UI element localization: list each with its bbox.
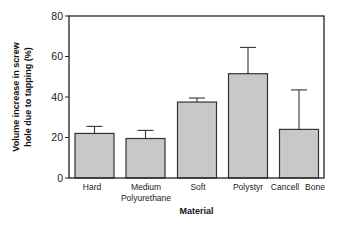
y-axis-title: Volume increase in screw hole due to tap… [11, 41, 33, 151]
x-category-label: Medium [131, 182, 161, 192]
x-category-label: Soft [190, 182, 206, 192]
bar-chart: 020406080 HardMediumPolyurethaneSoftPoly… [0, 0, 340, 227]
x-axis-category-labels: HardMediumPolyurethaneSoftPolystyrCancel… [83, 182, 325, 203]
x-category-label: Polystyr [233, 182, 263, 192]
x-category-label: Bone [305, 182, 325, 192]
y-tick-label: 80 [51, 10, 63, 22]
y-tick-label: 60 [51, 50, 63, 62]
bar [280, 129, 319, 178]
y-tick-label: 20 [51, 131, 63, 143]
x-category-label: Cancell [271, 182, 299, 192]
y-tick-label: 40 [51, 91, 63, 103]
y-axis-ticks: 020406080 [51, 10, 69, 184]
y-axis-title-line-2: hole due to tapping (%) [23, 47, 33, 147]
x-category-label: Polyurethane [121, 193, 171, 203]
x-axis-title: Material [179, 206, 213, 216]
bar [178, 102, 217, 178]
y-tick-label: 0 [57, 172, 63, 184]
x-category-label: Hard [83, 182, 102, 192]
bar [126, 139, 165, 178]
y-axis-title-line-1: Volume increase in screw [11, 41, 21, 151]
bar [75, 133, 114, 178]
bar [229, 74, 268, 178]
bars-group [75, 74, 319, 178]
